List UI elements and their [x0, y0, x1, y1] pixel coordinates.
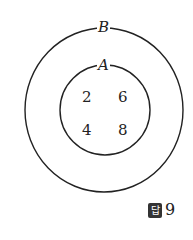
answer-value: 9 — [165, 202, 175, 218]
set-b-label: B — [97, 20, 110, 35]
answer-badge-icon: 답 — [148, 203, 162, 218]
element-4: 4 — [82, 123, 92, 138]
element-6: 6 — [118, 90, 128, 105]
set-a-circle — [60, 65, 150, 155]
element-8: 8 — [118, 123, 128, 138]
element-2: 2 — [82, 90, 92, 105]
set-b-circle — [25, 28, 183, 192]
answer: 답 9 — [148, 202, 175, 218]
set-a-label: A — [97, 58, 110, 73]
